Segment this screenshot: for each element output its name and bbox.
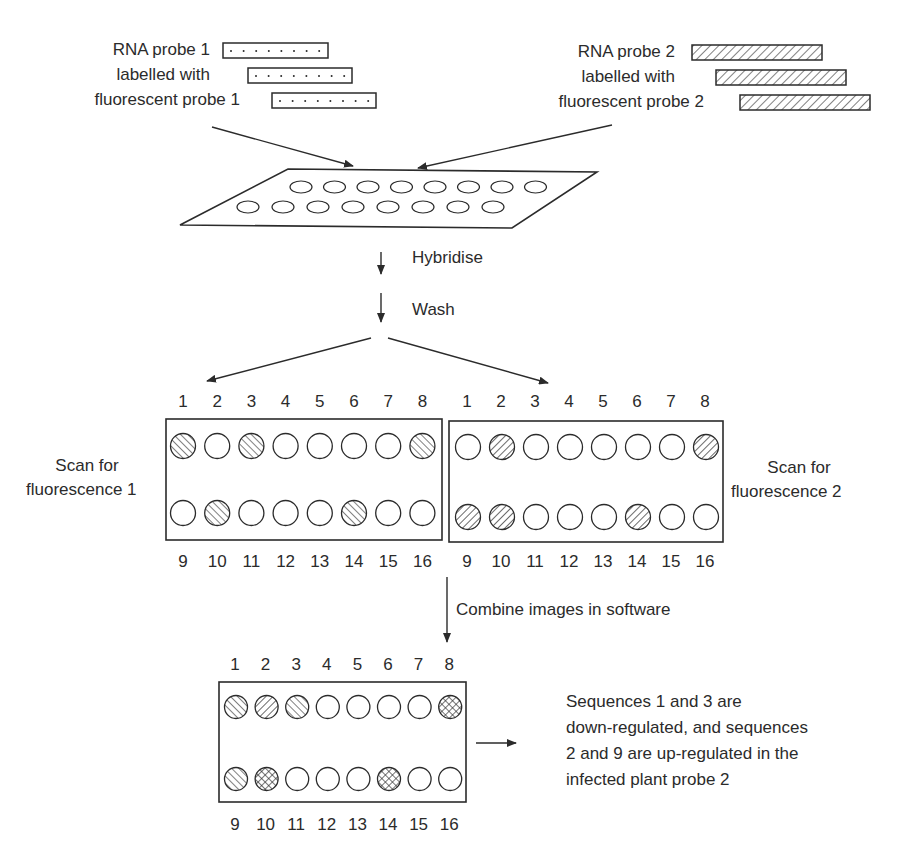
probe2-bars (692, 45, 870, 110)
well-empty (205, 434, 230, 459)
well-empty (307, 434, 332, 459)
well-hatch1 (239, 434, 264, 459)
combined-bottom-number: 12 (312, 815, 342, 835)
well-empty (376, 434, 401, 459)
probe1-bars (223, 43, 376, 108)
combined-top-number: 6 (373, 655, 403, 675)
step-hybridise-label: Hybridise (412, 246, 483, 270)
combined-top-number: 5 (342, 655, 372, 675)
well-empty (273, 501, 298, 526)
scan1-bottom-number: 15 (373, 552, 403, 572)
probe1-label-line2: labelled with (116, 63, 210, 87)
scan1-label-line1: Scan for (22, 454, 152, 478)
scan1-top-number: 1 (168, 392, 198, 412)
well-empty (660, 435, 685, 460)
probe2-label-line2: labelled with (581, 65, 675, 89)
scan1-bottom-number: 9 (168, 552, 198, 572)
well-empty (456, 435, 481, 460)
combined-bottom-number: 16 (434, 815, 464, 835)
well-empty (626, 435, 651, 460)
well-empty (171, 501, 196, 526)
step-combine-label: Combine images in software (456, 598, 670, 622)
well-empty (316, 768, 339, 791)
well-empty (410, 501, 435, 526)
scan2-bottom-number: 14 (622, 552, 652, 572)
well-empty (286, 768, 309, 791)
well-hatch2 (694, 435, 719, 460)
combined-top-number: 7 (404, 655, 434, 675)
scan2-bottom-number: 15 (656, 552, 686, 572)
well-hatch1 (171, 434, 196, 459)
well-empty (558, 505, 583, 530)
scan1-top-number: 6 (339, 392, 369, 412)
scan2-bottom-number: 16 (690, 552, 720, 572)
arrow-probe1-to-plate (212, 127, 353, 166)
combined-bottom-number: 13 (342, 815, 372, 835)
well-hatch1 (286, 696, 309, 719)
well-empty (408, 768, 431, 791)
well-hatch1 (205, 501, 230, 526)
scan2-label-line2: fluorescence 2 (731, 480, 842, 504)
well-hatch1 (410, 434, 435, 459)
combined-bottom-number: 11 (281, 815, 311, 835)
scan2-bottom-number: 13 (588, 552, 618, 572)
scan2-top-number: 8 (690, 392, 720, 412)
well-empty (660, 505, 685, 530)
conclusion-line1: Sequences 1 and 3 are (566, 690, 742, 714)
scan1-bottom-number: 10 (202, 552, 232, 572)
scan2-top-number: 6 (622, 392, 652, 412)
scan2-top-number: 2 (486, 392, 516, 412)
well-hatch2 (490, 435, 515, 460)
scan1-top-number: 7 (373, 392, 403, 412)
scan1-top-number: 5 (305, 392, 335, 412)
scan1-top-number: 2 (202, 392, 232, 412)
combined-top-number: 8 (434, 655, 464, 675)
arrow-to-scan2 (388, 338, 548, 383)
well-cross (378, 768, 401, 791)
scan1-top-number: 3 (236, 392, 266, 412)
combined-top-number: 1 (220, 655, 250, 675)
well-hatch2 (255, 696, 278, 719)
conclusion-line3: 2 and 9 are up-regulated in the (566, 742, 799, 766)
well-hatch2 (626, 505, 651, 530)
well-cross (439, 696, 462, 719)
well-cross (255, 768, 278, 791)
scan1-bottom-number: 14 (339, 552, 369, 572)
scan1-bottom-number: 16 (407, 552, 437, 572)
well-empty (239, 501, 264, 526)
scan1-bottom-number: 13 (305, 552, 335, 572)
well-empty (408, 696, 431, 719)
scan1-label-line2: fluorescence 1 (26, 478, 137, 502)
scan1-top-number: 4 (271, 392, 301, 412)
well-empty (316, 696, 339, 719)
well-hatch2 (456, 505, 481, 530)
scan1-bottom-number: 11 (236, 552, 266, 572)
scan1-array-box (166, 419, 442, 540)
well-empty (592, 435, 617, 460)
combined-top-number: 3 (281, 655, 311, 675)
scan1-bottom-number: 12 (271, 552, 301, 572)
scan2-top-number: 1 (452, 392, 482, 412)
well-hatch1 (225, 696, 248, 719)
scan2-bottom-number: 11 (520, 552, 550, 572)
well-empty (347, 696, 370, 719)
combined-bottom-number: 15 (404, 815, 434, 835)
well-hatch1 (225, 768, 248, 791)
probe2-label-line1: RNA probe 2 (578, 40, 675, 64)
scan2-top-number: 3 (520, 392, 550, 412)
conclusion-line2: down-regulated, and sequences (566, 716, 808, 740)
well-hatch1 (342, 501, 367, 526)
probe1-label-line1: RNA probe 1 (113, 38, 210, 62)
scan2-top-number: 4 (554, 392, 584, 412)
combined-top-number: 2 (251, 655, 281, 675)
well-empty (524, 505, 549, 530)
scan2-bottom-number: 10 (486, 552, 516, 572)
combined-bottom-number: 10 (251, 815, 281, 835)
step-wash-label: Wash (412, 298, 455, 322)
well-empty (524, 435, 549, 460)
combined-bottom-number: 14 (373, 815, 403, 835)
well-empty (342, 434, 367, 459)
probe2-label-line3: fluorescent probe 2 (558, 90, 704, 114)
well-empty (592, 505, 617, 530)
scan2-bottom-number: 12 (554, 552, 584, 572)
